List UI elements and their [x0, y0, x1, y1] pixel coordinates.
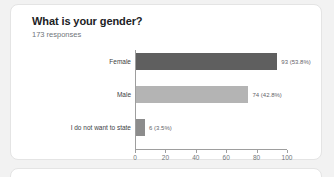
x-axis-tick — [165, 150, 166, 153]
bar[interactable] — [136, 119, 145, 136]
x-axis-tick-label: 20 — [162, 154, 169, 161]
bar-value-label: 74 (42.8%) — [252, 92, 281, 98]
bar-row: I do not want to state6 (3.5%) — [11, 119, 323, 136]
bar-row: Female93 (53.8%) — [11, 53, 323, 70]
x-axis-tick — [287, 150, 288, 153]
response-count: 173 responses — [32, 30, 81, 39]
x-axis-tick — [226, 150, 227, 153]
category-label: Female — [109, 58, 131, 65]
x-axis-tick — [196, 150, 197, 153]
bar-chart: 020406080100 Female93 (53.8%)Male74 (42.… — [11, 45, 323, 161]
bar[interactable] — [136, 53, 277, 70]
x-axis-tick — [257, 150, 258, 153]
bar-value-label: 93 (53.8%) — [281, 59, 310, 65]
x-axis-tick-label: 0 — [133, 154, 137, 161]
x-axis-tick-label: 40 — [192, 154, 199, 161]
question-result-card: What is your gender? 173 responses 02040… — [10, 4, 322, 160]
x-axis-tick-label: 60 — [223, 154, 230, 161]
category-label: I do not want to state — [71, 124, 131, 131]
survey-results-page: What is your gender? 173 responses 02040… — [0, 0, 334, 177]
x-axis-tick-label: 80 — [253, 154, 260, 161]
x-axis-line — [135, 149, 287, 150]
bar-row: Male74 (42.8%) — [11, 86, 323, 103]
x-axis-tick — [135, 150, 136, 153]
next-question-card — [10, 168, 322, 177]
bar-value-label: 6 (3.5%) — [149, 125, 172, 131]
category-label: Male — [117, 91, 131, 98]
page-title: What is your gender? — [32, 15, 142, 27]
bar[interactable] — [136, 86, 248, 103]
x-axis-tick-label: 100 — [282, 154, 293, 161]
